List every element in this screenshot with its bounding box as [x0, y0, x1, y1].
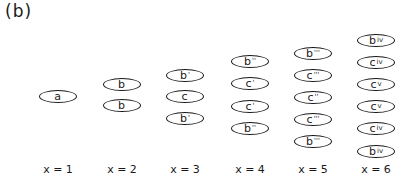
- node-symbol: c: [246, 101, 252, 112]
- node-prime: iv: [377, 37, 383, 44]
- node-symbol: c: [308, 92, 314, 103]
- column-label: x = 3: [169, 163, 201, 176]
- node-symbol: b: [244, 56, 251, 67]
- ellipse-node: civ: [357, 56, 395, 69]
- node-symbol: b: [369, 146, 376, 157]
- ellipse-node: b'': [231, 122, 269, 135]
- ellipse-node: b': [166, 69, 204, 82]
- node-symbol: b: [180, 113, 187, 124]
- ellipse-node: civ: [357, 122, 395, 135]
- ellipse-node: a: [39, 90, 77, 103]
- ellipse-node: c': [231, 100, 269, 113]
- node-symbol: a: [54, 91, 61, 102]
- node-prime: v: [377, 103, 381, 110]
- node-prime: ': [188, 115, 190, 122]
- node-symbol: c: [246, 78, 252, 89]
- ellipse-node: b'': [231, 55, 269, 68]
- node-symbol: b: [306, 48, 313, 59]
- column-label: x = 6: [360, 163, 392, 176]
- node-symbol: c: [369, 57, 375, 68]
- node-symbol: c: [370, 79, 376, 90]
- column-label: x = 4: [234, 163, 266, 176]
- node-prime: '': [252, 58, 256, 65]
- node-symbol: b: [180, 70, 187, 81]
- node-prime: '': [252, 125, 256, 132]
- node-prime: ': [188, 72, 190, 79]
- node-symbol: c: [370, 101, 376, 112]
- ellipse-node: cv: [357, 100, 395, 113]
- ellipse-node: b': [166, 112, 204, 125]
- column-label: x = 2: [106, 163, 138, 176]
- column-label: x = 5: [297, 163, 329, 176]
- ellipse-node: biv: [357, 34, 395, 47]
- node-symbol: c: [307, 114, 313, 125]
- node-prime: iv: [377, 148, 383, 155]
- node-prime: ': [253, 103, 255, 110]
- node-symbol: b: [118, 79, 125, 90]
- node-prime: iv: [376, 59, 382, 66]
- ellipse-node: c''': [294, 113, 332, 126]
- ellipse-node: b: [103, 78, 141, 91]
- ellipse-node: b''': [294, 135, 332, 148]
- ellipse-node: c: [166, 90, 204, 103]
- node-symbol: c: [369, 123, 375, 134]
- node-prime: ''': [314, 138, 320, 145]
- ellipse-node: biv: [357, 145, 395, 158]
- node-prime: ''': [314, 116, 320, 123]
- ellipse-node: b''': [294, 47, 332, 60]
- node-symbol: b: [118, 100, 125, 111]
- node-prime: iv: [376, 125, 382, 132]
- ellipse-node: b: [103, 99, 141, 112]
- ellipse-diagram: ax = 1bbx = 2b'cb'x = 3b''c'c'b''x = 4b'…: [0, 0, 416, 182]
- node-symbol: c: [307, 70, 313, 81]
- node-prime: ''': [314, 72, 320, 79]
- node-prime: ': [253, 80, 255, 87]
- node-symbol: b: [306, 136, 313, 147]
- node-prime: '': [315, 94, 319, 101]
- node-symbol: b: [369, 35, 376, 46]
- column-label: x = 1: [42, 163, 74, 176]
- ellipse-node: c': [231, 77, 269, 90]
- ellipse-node: c''': [294, 69, 332, 82]
- node-prime: ''': [314, 50, 320, 57]
- node-symbol: c: [181, 91, 187, 102]
- ellipse-node: c'': [294, 91, 332, 104]
- node-prime: v: [377, 81, 381, 88]
- ellipse-node: cv: [357, 78, 395, 91]
- node-symbol: b: [244, 123, 251, 134]
